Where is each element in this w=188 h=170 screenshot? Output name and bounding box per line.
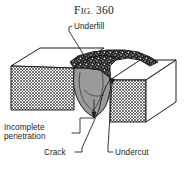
label-underfill: Underfill [74, 22, 105, 31]
right-plate-front-face [110, 80, 146, 122]
label-incomplete-penetration-line1: Incomplete [4, 123, 45, 132]
figure-container: FIG. 360 [0, 0, 188, 170]
figure-title-number: 360 [96, 4, 114, 16]
welding-defects-illustration: FIG. 360 [0, 0, 188, 170]
figure-title-ig: IG. [81, 6, 93, 16]
figure-title: FIG. 360 [74, 4, 114, 16]
label-undercut: Undercut [115, 148, 149, 157]
label-incomplete-penetration-line2: penetration [4, 132, 46, 141]
figure-title-f: F [74, 4, 81, 16]
label-crack: Crack [44, 148, 66, 157]
right-plate [110, 60, 176, 122]
leader-incomplete-penetration [72, 118, 94, 133]
weld-cross-section [74, 68, 111, 118]
left-plate-front-face [11, 66, 74, 110]
